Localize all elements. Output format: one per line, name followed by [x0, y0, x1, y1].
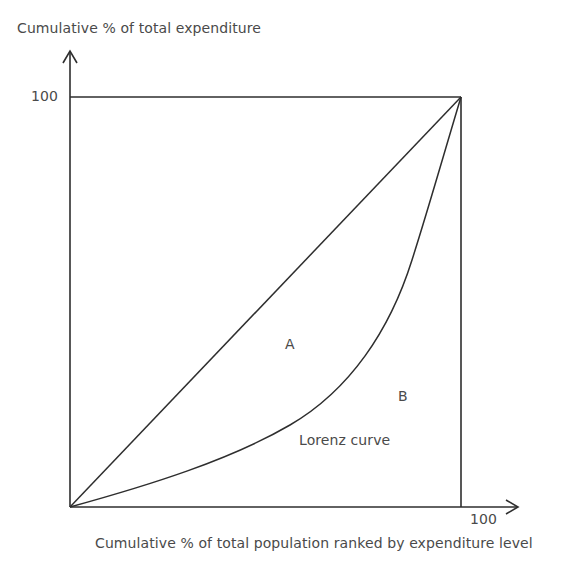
x-tick-100: 100	[470, 511, 497, 527]
lorenz-curve-label: Lorenz curve	[299, 432, 390, 448]
lorenz-chart	[0, 0, 573, 562]
region-a-label: A	[285, 336, 295, 352]
equality-line	[70, 97, 461, 507]
y-axis-title: Cumulative % of total expenditure	[17, 20, 261, 36]
region-b-label: B	[398, 388, 408, 404]
x-axis-title: Cumulative % of total population ranked …	[95, 535, 533, 551]
y-tick-100: 100	[31, 88, 58, 104]
